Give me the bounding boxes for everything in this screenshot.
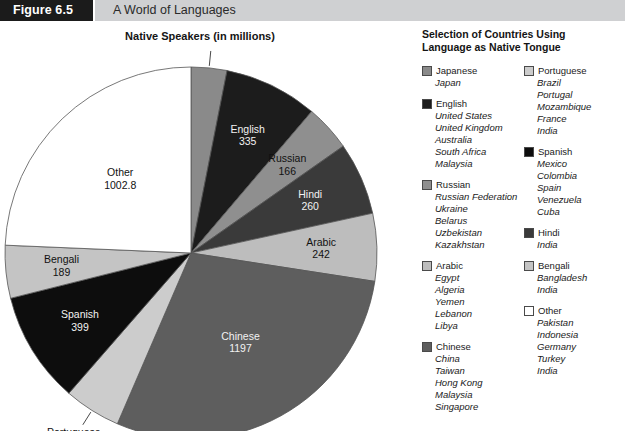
legend-country-item: Pakistan: [537, 317, 624, 329]
pie-label-value: 335: [239, 135, 257, 147]
legend-entry-portuguese[interactable]: Portuguese: [524, 65, 624, 77]
legend-group[interactable]: ArabicEgyptAlgeriaYemenLebanonLibya: [422, 260, 522, 332]
legend-country-item: Brazil: [537, 77, 624, 89]
pie-label-value: 242: [312, 248, 330, 260]
pie-label-name: Portuguese: [47, 426, 101, 431]
legend-entry-japanese[interactable]: Japanese: [422, 65, 522, 77]
legend-country-item: Uzbekistan: [435, 227, 522, 239]
legend-country-item: Belarus: [435, 215, 522, 227]
legend-swatch-icon: [524, 261, 534, 271]
pie-label-other: Other1002.8: [104, 166, 136, 191]
legend-country-list: MexicoColombiaSpainVenezuelaCuba: [524, 158, 624, 218]
pie-slice-other[interactable]: [5, 67, 191, 253]
legend-swatch-icon: [422, 66, 432, 76]
pie-leader-line: [83, 412, 91, 425]
legend-swatch-icon: [422, 342, 432, 352]
legend-country-item: India: [537, 365, 624, 377]
legend-swatch-icon: [524, 66, 534, 76]
legend-country-item: Colombia: [537, 170, 624, 182]
legend-swatch-icon: [422, 180, 432, 190]
legend-group[interactable]: HindiIndia: [524, 227, 624, 251]
legend-country-list: Russian FederationUkraineBelarusUzbekist…: [422, 191, 522, 251]
legend-group[interactable]: ChineseChinaTaiwanHong KongMalaysiaSinga…: [422, 341, 522, 413]
pie-label-name: Arabic: [306, 236, 336, 248]
legend-country-item: Singapore: [435, 401, 522, 413]
pie-label-portuguese: Portuguese203: [47, 426, 101, 431]
legend-country-item: India: [537, 284, 624, 296]
legend-entry-russian[interactable]: Russian: [422, 179, 522, 191]
pie-label-name: Chinese: [221, 330, 260, 342]
legend: Selection of Countries Using Language as…: [422, 28, 622, 428]
legend-country-list: India: [524, 239, 624, 251]
legend-entry-english[interactable]: English: [422, 98, 522, 110]
legend-entry-chinese[interactable]: Chinese: [422, 341, 522, 353]
figure-title-label: A World of Languages: [113, 3, 236, 17]
legend-group[interactable]: EnglishUnited StatesUnited KingdomAustra…: [422, 98, 522, 170]
legend-country-item: Lebanon: [435, 308, 522, 320]
chart-title: Native Speakers (in millions): [0, 30, 400, 42]
legend-language-label: Bengali: [538, 260, 570, 272]
legend-group[interactable]: BengaliBangladeshIndia: [524, 260, 624, 296]
legend-country-item: Malaysia: [435, 389, 522, 401]
legend-title: Selection of Countries Using Language as…: [422, 28, 618, 53]
pie-label-name: Other: [107, 166, 134, 178]
pie-label-value: 399: [71, 321, 89, 333]
pie-label-value: 1002.8: [104, 179, 136, 191]
legend-entry-spanish[interactable]: Spanish: [524, 146, 624, 158]
figure-number-label: Figure 6.5: [13, 3, 73, 17]
pie-label-value: 189: [53, 266, 71, 278]
legend-country-item: Germany: [537, 341, 624, 353]
legend-group[interactable]: SpanishMexicoColombiaSpainVenezuelaCuba: [524, 146, 624, 218]
pie-leader-line: [209, 51, 210, 66]
legend-country-list: Japan: [422, 77, 522, 89]
legend-country-list: ChinaTaiwanHong KongMalaysiaSingapore: [422, 353, 522, 413]
legend-country-item: Bangladesh: [537, 272, 624, 284]
legend-country-list: United StatesUnited KingdomAustraliaSout…: [422, 110, 522, 170]
legend-country-item: Mexico: [537, 158, 624, 170]
pie-label-name: Bengali: [44, 253, 79, 265]
legend-country-item: Spain: [537, 182, 624, 194]
pie-label-value: 166: [279, 165, 297, 177]
legend-country-item: Australia: [435, 134, 522, 146]
legend-group[interactable]: RussianRussian FederationUkraineBelarusU…: [422, 179, 522, 251]
legend-country-item: Yemen: [435, 296, 522, 308]
legend-language-label: Japanese: [436, 65, 477, 77]
legend-country-item: United Kingdom: [435, 122, 522, 134]
legend-country-item: China: [435, 353, 522, 365]
legend-column-left: JapaneseJapanEnglishUnited StatesUnited …: [422, 65, 522, 422]
legend-language-label: Arabic: [436, 260, 463, 272]
legend-country-item: Algeria: [435, 284, 522, 296]
legend-country-list: PakistanIndonesiaGermanyTurkeyIndia: [524, 317, 624, 377]
legend-entry-bengali[interactable]: Bengali: [524, 260, 624, 272]
legend-country-list: BangladeshIndia: [524, 272, 624, 296]
legend-country-item: France: [537, 113, 624, 125]
legend-group[interactable]: JapaneseJapan: [422, 65, 522, 89]
figure-title-banner: A World of Languages: [95, 0, 625, 21]
legend-country-item: Turkey: [537, 353, 624, 365]
legend-country-item: United States: [435, 110, 522, 122]
legend-country-item: Taiwan: [435, 365, 522, 377]
legend-entry-other[interactable]: Other: [524, 305, 624, 317]
legend-country-item: Venezuela: [537, 194, 624, 206]
legend-language-label: Spanish: [538, 146, 572, 158]
legend-language-label: English: [436, 98, 467, 110]
legend-entry-arabic[interactable]: Arabic: [422, 260, 522, 272]
legend-country-list: BrazilPortugalMozambiqueFranceIndia: [524, 77, 624, 137]
legend-country-item: Portugal: [537, 89, 624, 101]
legend-language-label: Portuguese: [538, 65, 587, 77]
figure-number-box: Figure 6.5: [0, 0, 93, 21]
legend-language-label: Chinese: [436, 341, 471, 353]
legend-group[interactable]: PortugueseBrazilPortugalMozambiqueFrance…: [524, 65, 624, 137]
legend-entry-hindi[interactable]: Hindi: [524, 227, 624, 239]
legend-swatch-icon: [422, 99, 432, 109]
legend-country-item: Ukraine: [435, 203, 522, 215]
legend-country-item: Kazakhstan: [435, 239, 522, 251]
legend-country-item: Malaysia: [435, 158, 522, 170]
pie-label-name: Spanish: [61, 308, 99, 320]
pie-chart: Japanese128English335Russian166Hindi260A…: [0, 46, 400, 431]
legend-swatch-icon: [524, 228, 534, 238]
legend-group[interactable]: OtherPakistanIndonesiaGermanyTurkeyIndia: [524, 305, 624, 377]
legend-country-item: Cuba: [537, 206, 624, 218]
pie-chart-svg: Japanese128English335Russian166Hindi260A…: [0, 46, 400, 431]
pie-label-value: 1197: [229, 342, 252, 354]
